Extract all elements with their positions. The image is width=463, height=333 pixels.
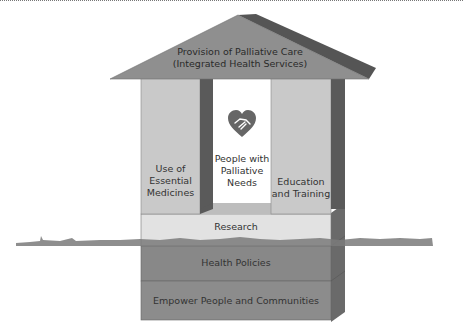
pillar-right-line2: and Training (271, 188, 331, 200)
roof-label-line2: (Integrated Health Services) (150, 58, 330, 70)
pillar-right-line1: Education (271, 176, 331, 188)
pillar-center-line1: People with (213, 153, 271, 165)
research-label: Research (141, 221, 331, 233)
pillar-center-line2: Palliative (213, 165, 271, 177)
pillar-left-line2: Essential (141, 175, 200, 187)
pillar-left-line1: Use of (141, 163, 200, 175)
roof-label: Provision of Palliative Care (Integrated… (150, 46, 330, 70)
empower-label: Empower People and Communities (141, 295, 331, 307)
right-pillar-side (331, 78, 345, 209)
health-policies-label: Health Policies (141, 257, 331, 269)
pillar-left-line3: Medicines (141, 187, 200, 199)
foundation-side-face (331, 203, 345, 322)
pillar-center-line3: Needs (213, 177, 271, 189)
pillar-label-essential-medicines: Use of Essential Medicines (141, 163, 200, 199)
pillar-label-education-training: Education and Training (271, 176, 331, 200)
roof-label-line1: Provision of Palliative Care (150, 46, 330, 58)
left-pillar-side (200, 78, 213, 209)
pillar-label-people-with-needs: People with Palliative Needs (213, 153, 271, 189)
